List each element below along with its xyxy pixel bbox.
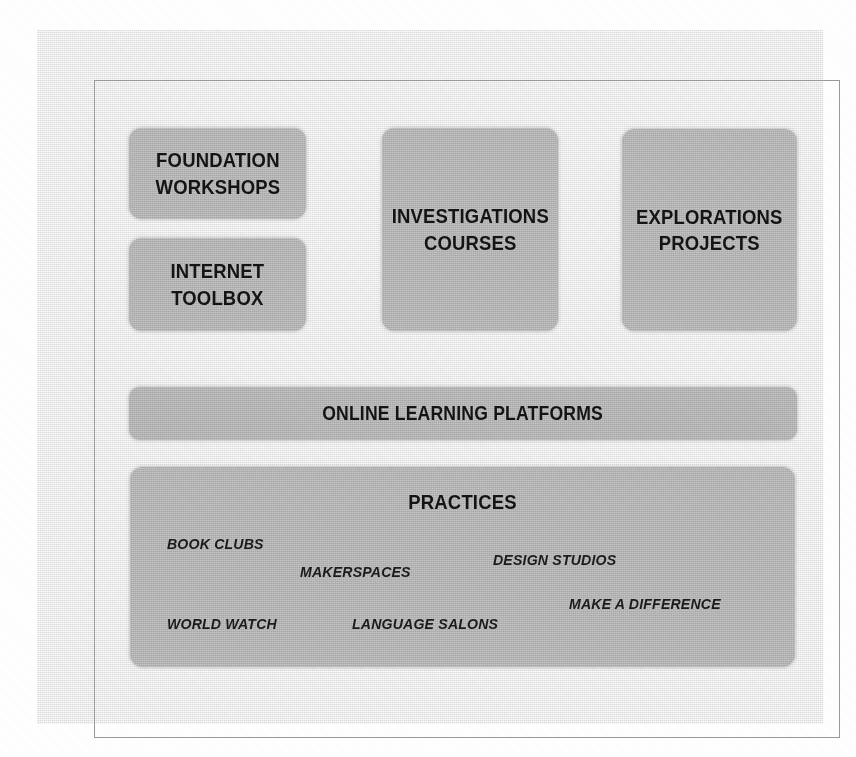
- practice-item-makerspaces[interactable]: MAKERSPACES: [300, 563, 411, 582]
- block-investigations-courses[interactable]: INVESTIGATIONS COURSES: [382, 128, 558, 331]
- practice-item-language-salons[interactable]: LANGUAGE SALONS: [352, 615, 498, 634]
- practice-item-make-a-difference[interactable]: MAKE A DIFFERENCE: [569, 595, 721, 614]
- practice-item-book-clubs[interactable]: BOOK CLUBS: [167, 535, 264, 554]
- diagram-sheet: FOUNDATION WORKSHOPS INTERNET TOOLBOX IN…: [37, 30, 823, 724]
- block-online-learning-platforms-label: ONLINE LEARNING PLATFORMS: [323, 401, 604, 426]
- practice-item-design-studios[interactable]: DESIGN STUDIOS: [493, 551, 616, 570]
- scanned-diagram-page: FOUNDATION WORKSHOPS INTERNET TOOLBOX IN…: [0, 0, 856, 757]
- block-internet-toolbox[interactable]: INTERNET TOOLBOX: [129, 238, 306, 331]
- practices-title: PRACTICES: [170, 489, 755, 515]
- block-foundation-workshops-label: FOUNDATION WORKSHOPS: [155, 147, 280, 200]
- block-investigations-courses-label: INVESTIGATIONS COURSES: [391, 203, 548, 256]
- block-internet-toolbox-label: INTERNET TOOLBOX: [171, 258, 265, 311]
- block-foundation-workshops[interactable]: FOUNDATION WORKSHOPS: [129, 128, 306, 219]
- block-explorations-projects[interactable]: EXPLORATIONS PROJECTS: [622, 129, 797, 331]
- practice-item-world-watch[interactable]: WORLD WATCH: [167, 615, 277, 634]
- block-practices[interactable]: PRACTICES BOOK CLUBS MAKERSPACES DESIGN …: [130, 467, 795, 667]
- block-online-learning-platforms[interactable]: ONLINE LEARNING PLATFORMS: [129, 387, 797, 440]
- block-explorations-projects-label: EXPLORATIONS PROJECTS: [636, 204, 783, 257]
